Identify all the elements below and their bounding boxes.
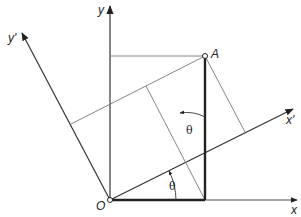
x-axis-label: x [290, 203, 298, 217]
point-a-label: A [210, 47, 219, 61]
origin-point [108, 198, 113, 203]
point-a [203, 54, 208, 59]
x-prime-axis-label: x' [285, 113, 295, 127]
y-prime-axis [22, 33, 110, 200]
y-prime-axis-label: y' [7, 31, 17, 45]
angle-label-upper: θ [186, 124, 193, 137]
projection-a-to-y-prime-axis [71, 56, 205, 124]
origin-label: O [96, 199, 105, 213]
angle-arc-upper [180, 112, 205, 117]
projection-a-to-x-prime-axis [205, 56, 245, 132]
x-prime-axis [110, 109, 293, 200]
angle-label-lower: θ [169, 180, 176, 193]
rotated-coordinate-diagram: y x x' y' O A θ θ [0, 0, 301, 217]
y-axis-label: y [97, 3, 105, 17]
